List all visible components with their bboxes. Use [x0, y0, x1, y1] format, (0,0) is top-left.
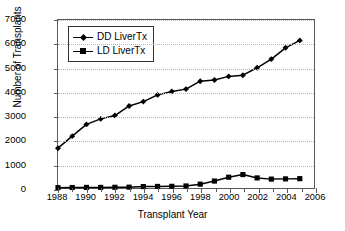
data-point-marker	[140, 99, 146, 105]
data-point-marker	[198, 182, 203, 187]
legend-marker-diamond-icon	[73, 32, 93, 42]
gridline	[58, 141, 314, 142]
y-axis-tick	[54, 117, 58, 118]
data-point-marker	[212, 178, 217, 183]
x-axis-tick-label: 1992	[104, 193, 125, 202]
gridline	[58, 44, 314, 45]
data-point-marker	[255, 175, 260, 180]
y-axis-tick	[54, 93, 58, 94]
x-axis-tick-label: 1990	[75, 193, 96, 202]
y-axis-tick	[54, 166, 58, 167]
y-axis-tick-label: 0	[21, 184, 26, 194]
legend-item-dd: DD LiverTx	[73, 30, 147, 44]
data-point-marker	[283, 176, 288, 181]
x-axis-tick-minor	[302, 188, 303, 192]
x-axis-tick-label: 1994	[133, 193, 154, 202]
data-point-marker	[240, 72, 246, 78]
x-axis-tick-label: 2004	[276, 193, 297, 202]
y-axis-tick-label: 3000	[5, 111, 26, 121]
gridline	[58, 20, 314, 21]
y-axis-tick-label: 5000	[5, 63, 26, 73]
chart-figure: Number of Transplants DD LiverTx LD Live…	[0, 0, 345, 231]
legend-marker-square-icon	[73, 46, 93, 56]
x-axis-tick-label: 1998	[190, 193, 211, 202]
x-axis-tick-label: 2002	[247, 193, 268, 202]
plot-area: DD LiverTx LD LiverTx	[57, 19, 315, 189]
x-axis-tick-label: 2006	[305, 193, 326, 202]
data-point-marker	[226, 175, 231, 180]
y-axis-tick	[54, 44, 58, 45]
y-axis-tick-label: 7000	[5, 14, 26, 24]
x-axis-tick-label: 2000	[219, 193, 240, 202]
legend-label-dd: DD LiverTx	[97, 32, 147, 42]
gridline	[58, 117, 314, 118]
legend-label-ld: LD LiverTx	[97, 46, 145, 56]
data-point-marker	[226, 73, 232, 79]
y-axis-tick	[54, 69, 58, 70]
y-axis-tick-label: 4000	[5, 87, 26, 97]
y-axis-tick-label: 2000	[5, 135, 26, 145]
x-axis-tick-minor	[216, 188, 217, 192]
x-axis-tick-label: 1996	[161, 193, 182, 202]
x-axis-title: Transplant Year	[0, 210, 345, 220]
data-point-marker	[197, 78, 203, 84]
x-axis-tick-minor	[244, 188, 245, 192]
x-axis-tick-label: 1988	[47, 193, 68, 202]
x-axis-tick-minor	[130, 188, 131, 192]
gridline	[58, 166, 314, 167]
x-axis-tick-minor	[72, 188, 73, 192]
data-point-marker	[269, 177, 274, 182]
y-axis-tick-label: 1000	[5, 160, 26, 170]
data-point-marker	[297, 176, 302, 181]
y-axis-tick-label: 6000	[5, 38, 26, 48]
y-axis-tick	[54, 141, 58, 142]
x-axis-tick-minor	[273, 188, 274, 192]
data-point-marker	[297, 37, 303, 43]
x-axis-tick-minor	[101, 188, 102, 192]
data-point-marker	[211, 77, 217, 83]
y-axis-tick	[54, 20, 58, 21]
legend-item-ld: LD LiverTx	[73, 44, 147, 58]
gridline	[58, 69, 314, 70]
x-axis-tick-minor	[158, 188, 159, 192]
data-point-marker	[183, 86, 189, 92]
gridline	[58, 93, 314, 94]
data-point-marker	[240, 172, 245, 177]
x-axis-tick-minor	[187, 188, 188, 192]
series-line	[58, 175, 300, 188]
